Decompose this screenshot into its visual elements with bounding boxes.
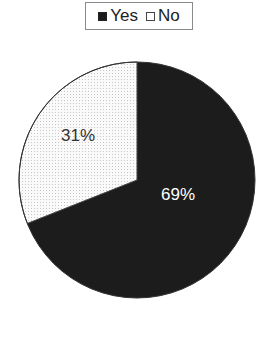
slice-label-no: 31% bbox=[61, 126, 95, 146]
slice-label-yes: 69% bbox=[161, 185, 195, 205]
pie-chart bbox=[0, 0, 277, 340]
